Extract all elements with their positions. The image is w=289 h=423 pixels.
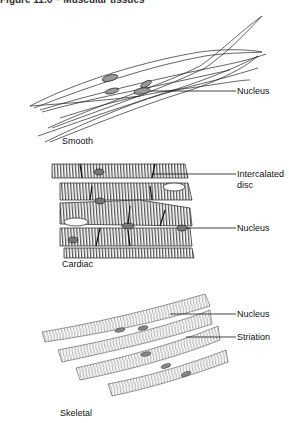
cardiac-nucleus-label: Nucleus <box>237 223 270 233</box>
skeletal-muscle-drawing <box>42 294 228 396</box>
smooth-nucleus-label: Nucleus <box>237 86 270 96</box>
smooth-caption: Smooth <box>62 136 93 146</box>
skeletal-nucleus-label: Nucleus <box>237 309 270 319</box>
muscle-illustration <box>0 0 289 423</box>
cardiac-muscle-drawing <box>52 164 194 258</box>
cardiac-disc-label: disc <box>237 180 253 190</box>
smooth-muscle-drawing <box>30 16 266 142</box>
skeletal-striation-label: Striation <box>237 332 270 342</box>
skeletal-caption: Skeletal <box>60 408 92 418</box>
cardiac-intercalated-label: Intercalated <box>237 169 284 179</box>
cardiac-caption: Cardiac <box>62 259 93 269</box>
